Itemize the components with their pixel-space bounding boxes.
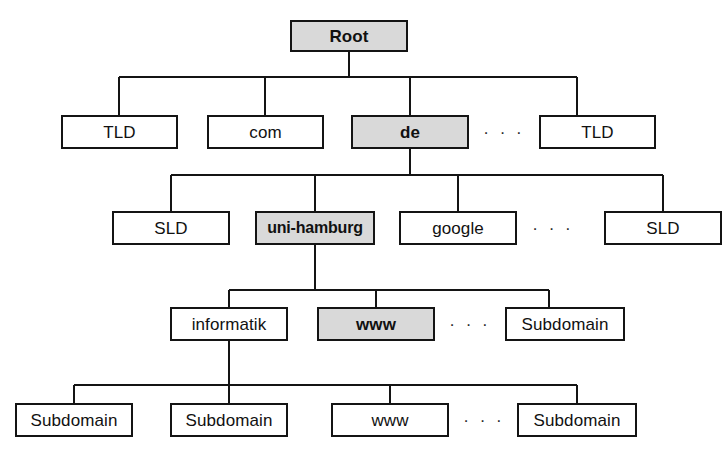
- node-www-level5[interactable]: www: [331, 403, 449, 437]
- node-tld-left-label: TLD: [103, 124, 135, 141]
- node-subdomain-c-label: Subdomain: [534, 412, 621, 429]
- node-informatik-label: informatik: [192, 316, 267, 333]
- ellipsis-subdomain-level-1: · · ·: [444, 307, 496, 341]
- node-subdomain-c[interactable]: Subdomain: [517, 403, 637, 437]
- node-uni-hamburg[interactable]: uni-hamburg: [255, 211, 375, 245]
- node-www-level4[interactable]: www: [317, 307, 435, 341]
- node-uni-hamburg-label: uni-hamburg: [267, 220, 363, 236]
- node-com[interactable]: com: [207, 115, 324, 149]
- node-subdomain-b-label: Subdomain: [186, 412, 273, 429]
- dns-hierarchy-diagram: Root TLD com de · · · TLD SLD uni-hambur…: [0, 0, 723, 455]
- node-subdomain-a-label: Subdomain: [31, 412, 118, 429]
- node-com-label: com: [249, 124, 281, 141]
- node-de[interactable]: de: [351, 115, 469, 149]
- node-root-label: Root: [329, 28, 368, 45]
- node-tld-right-label: TLD: [581, 124, 613, 141]
- node-tld-right[interactable]: TLD: [539, 115, 656, 149]
- node-subdomain-right-4-label: Subdomain: [522, 316, 609, 333]
- node-informatik[interactable]: informatik: [170, 307, 288, 341]
- node-sld-right-label: SLD: [646, 220, 679, 237]
- node-google[interactable]: google: [399, 211, 517, 245]
- node-subdomain-a[interactable]: Subdomain: [15, 403, 133, 437]
- node-www-level5-label: www: [371, 412, 408, 429]
- node-de-label: de: [400, 124, 420, 141]
- node-sld-right[interactable]: SLD: [604, 211, 722, 245]
- node-subdomain-b[interactable]: Subdomain: [170, 403, 288, 437]
- ellipsis-sld-level: · · ·: [527, 211, 579, 245]
- node-sld-left[interactable]: SLD: [112, 211, 230, 245]
- node-sld-left-label: SLD: [154, 220, 187, 237]
- node-google-label: google: [432, 220, 484, 237]
- node-subdomain-right-4[interactable]: Subdomain: [505, 307, 625, 341]
- ellipsis-tld-level: · · ·: [478, 115, 530, 149]
- node-www-level4-label: www: [356, 316, 396, 333]
- node-tld-left[interactable]: TLD: [61, 115, 178, 149]
- ellipsis-subdomain-level-2: · · ·: [458, 403, 510, 437]
- node-root[interactable]: Root: [290, 20, 408, 52]
